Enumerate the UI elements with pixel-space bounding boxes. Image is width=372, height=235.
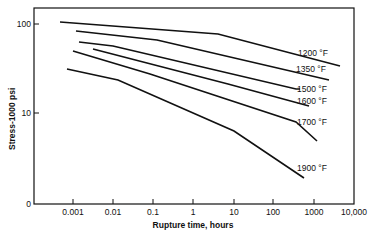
y-axis-title: Stress-1000 psi [7, 88, 17, 150]
x-tick-1000: 1000 [305, 207, 324, 217]
x-tick-10: 10 [229, 207, 239, 217]
label-1200F: 1200 °F [298, 48, 328, 58]
label-1700F: 1700 °F [297, 117, 327, 127]
stress-rupture-chart: 100 10 0 Stress-1000 psi 0.001 0.01 0.1 … [0, 0, 372, 235]
curve-1350F [76, 31, 329, 80]
chart-container: 100 10 0 Stress-1000 psi 0.001 0.01 0.1 … [0, 0, 372, 235]
x-tick-1: 1 [191, 207, 196, 217]
label-1600F: 1600 °F [297, 96, 327, 106]
label-1350F: 1350 °F [296, 64, 326, 74]
x-tick-0.1: 0.1 [147, 207, 159, 217]
x-tick-0.001: 0.001 [62, 207, 84, 217]
x-tick-100: 100 [266, 207, 280, 217]
label-1500F: 1500 °F [297, 84, 327, 94]
y-tick-10: 10 [22, 108, 32, 118]
label-1900F: 1900 °F [297, 163, 327, 173]
x-axis-title: Rupture time, hours [153, 220, 234, 230]
x-tick-0.01: 0.01 [105, 207, 122, 217]
curve-1600F [93, 49, 309, 106]
y-tick-0: 0 [26, 199, 31, 209]
x-tick-10000: 10,000 [341, 207, 367, 217]
y-tick-100: 100 [17, 19, 31, 29]
